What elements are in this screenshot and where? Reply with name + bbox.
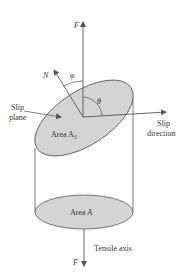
slip-plane-label-line2: plane bbox=[9, 113, 27, 122]
slip-plane-ellipse bbox=[22, 65, 145, 171]
slip-direction-label-line2: direction bbox=[147, 129, 175, 138]
slip-area-label: Area AS bbox=[51, 130, 77, 140]
phi-angle-arc bbox=[64, 81, 83, 86]
tensile-axis-label: Tensile axis bbox=[94, 244, 132, 253]
cross-section-area-label: Area A bbox=[70, 208, 93, 217]
normal-label: N bbox=[42, 71, 49, 80]
force-bottom-label: F bbox=[72, 258, 78, 267]
theta-label: θ bbox=[97, 97, 101, 106]
slip-system-diagram: F N φ θ Slip plane Slip direction Area A… bbox=[0, 0, 189, 278]
force-top-label: F bbox=[73, 21, 79, 30]
slip-direction-label-line1: Slip bbox=[157, 119, 170, 128]
phi-label: φ bbox=[70, 71, 75, 80]
slip-plane-label-line1: Slip bbox=[11, 103, 24, 112]
